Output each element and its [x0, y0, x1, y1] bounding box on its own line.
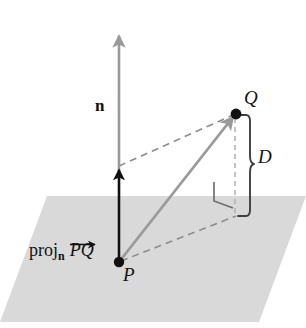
- vector-overbar-arrow-icon: [70, 241, 98, 248]
- distance-label: D: [258, 147, 272, 166]
- geometry-figure: n Q P D proj n PQ: [0, 0, 306, 328]
- point-q-label: Q: [244, 88, 258, 107]
- point-q-dot: [231, 109, 242, 120]
- projection-label: proj n PQ: [29, 241, 94, 259]
- projection-vector-name: PQ: [70, 241, 94, 259]
- projection-subscript: n: [58, 250, 65, 262]
- point-p-label: P: [123, 265, 135, 284]
- projection-word: proj: [29, 241, 58, 259]
- normal-vector-label: n: [95, 97, 104, 114]
